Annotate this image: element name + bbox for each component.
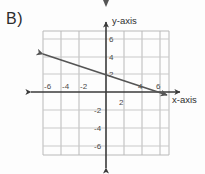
y-axis-label: y-axis [112,15,137,26]
y-tick-6: 6 [109,35,114,44]
y-tick-neg-4: -4 [94,124,102,133]
y-tick-neg-2: -2 [94,106,102,115]
x-tick-neg-4: -4 [62,82,70,91]
y-tick-4: 4 [109,53,114,62]
x-tick-2: 2 [119,98,124,107]
x-axis-label: x-axis [172,94,197,105]
x-tick-neg-6: -6 [44,82,52,91]
graph-figure: B) [0,0,205,174]
y-tick-neg-6: -6 [94,142,102,151]
top-arrow-fragment [103,0,109,7]
x-tick-6: 6 [156,82,161,91]
coordinate-plane: y-axis x-axis 6 4 2 -2 -4 -6 -6 -4 -2 2 … [0,0,205,174]
x-tick-neg-2: -2 [80,82,88,91]
